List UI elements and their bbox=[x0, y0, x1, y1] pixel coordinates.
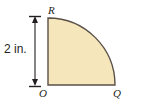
vertex-label-q: Q bbox=[113, 88, 121, 99]
dimension-label: 2 in. bbox=[4, 43, 27, 55]
geometry-figure: R O Q 2 in. bbox=[0, 0, 141, 106]
dimension-line-group bbox=[29, 16, 41, 87]
vertex-label-r: R bbox=[48, 5, 55, 16]
dimension-arrowhead-down-icon bbox=[32, 79, 38, 86]
vertex-label-o: O bbox=[39, 88, 47, 99]
quarter-circle-sector-shape bbox=[48, 18, 115, 85]
